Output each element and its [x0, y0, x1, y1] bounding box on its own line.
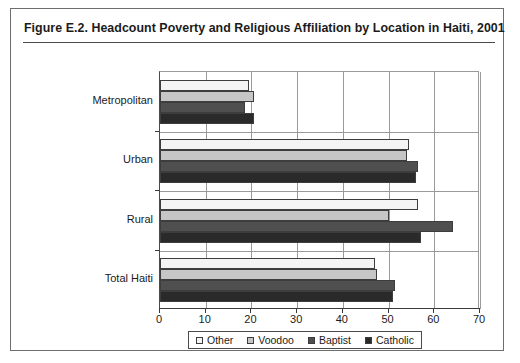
bar-rural-other — [160, 199, 418, 210]
category-label-total-haiti: Total Haiti — [53, 272, 153, 284]
legend-swatch-other — [196, 337, 203, 344]
bar-rural-catholic — [160, 232, 421, 243]
legend-item-catholic: Catholic — [365, 334, 414, 346]
bar-rural-voodoo — [160, 210, 389, 221]
legend-label-voodoo: Voodoo — [258, 334, 294, 346]
gridline-x-70 — [480, 72, 481, 309]
bar-metropolitan-voodoo — [160, 91, 254, 102]
y-axis-ticks — [159, 71, 165, 309]
legend-swatch-voodoo — [247, 337, 254, 344]
x-tick-label-0: 0 — [139, 313, 179, 325]
bar-urban-catholic — [160, 172, 416, 183]
gridline-y-2 — [160, 191, 478, 192]
bar-group-total-haiti — [160, 258, 478, 302]
bar-urban-other — [160, 139, 409, 150]
legend-label-catholic: Catholic — [376, 334, 414, 346]
bar-metropolitan-catholic — [160, 113, 254, 124]
x-tick-label-60: 60 — [413, 313, 453, 325]
bar-group-rural — [160, 199, 478, 243]
legend-swatch-baptist — [308, 337, 315, 344]
chart-legend: OtherVoodooBaptistCatholic — [188, 331, 422, 349]
y-tick-1 — [155, 131, 159, 132]
bar-total-haiti-catholic — [160, 291, 393, 302]
category-label-metropolitan: Metropolitan — [53, 94, 153, 106]
title-divider — [23, 42, 495, 43]
bar-group-urban — [160, 139, 478, 183]
figure-frame: Figure E.2. Headcount Poverty and Religi… — [10, 8, 504, 351]
bar-total-haiti-baptist — [160, 280, 395, 291]
x-tick-label-10: 10 — [185, 313, 225, 325]
legend-label-baptist: Baptist — [319, 334, 351, 346]
legend-label-other: Other — [207, 334, 233, 346]
category-labels: MetropolitanUrbanRuralTotal Haiti — [49, 71, 153, 309]
bar-total-haiti-other — [160, 258, 375, 269]
legend-item-voodoo: Voodoo — [247, 334, 294, 346]
bar-urban-baptist — [160, 161, 418, 172]
legend-item-baptist: Baptist — [308, 334, 351, 346]
x-tick-label-50: 50 — [368, 313, 408, 325]
bar-metropolitan-baptist — [160, 102, 245, 113]
bar-total-haiti-voodoo — [160, 269, 377, 280]
bar-rural-baptist — [160, 221, 453, 232]
bar-group-metropolitan — [160, 80, 478, 124]
bar-urban-voodoo — [160, 150, 407, 161]
x-tick-label-70: 70 — [459, 313, 499, 325]
category-label-rural: Rural — [53, 213, 153, 225]
x-axis-tick-labels: 010203040506070 — [159, 313, 480, 329]
x-tick-label-40: 40 — [322, 313, 362, 325]
legend-item-other: Other — [196, 334, 233, 346]
bar-metropolitan-other — [160, 80, 249, 91]
y-tick-3 — [155, 250, 159, 251]
figure-title: Figure E.2. Headcount Poverty and Religi… — [24, 21, 494, 35]
category-label-urban: Urban — [53, 153, 153, 165]
legend-swatch-catholic — [365, 337, 372, 344]
plot-area — [159, 71, 479, 309]
gridline-y-3 — [160, 251, 478, 252]
gridline-y-1 — [160, 132, 478, 133]
x-tick-label-20: 20 — [230, 313, 270, 325]
y-tick-2 — [155, 190, 159, 191]
x-tick-label-30: 30 — [276, 313, 316, 325]
